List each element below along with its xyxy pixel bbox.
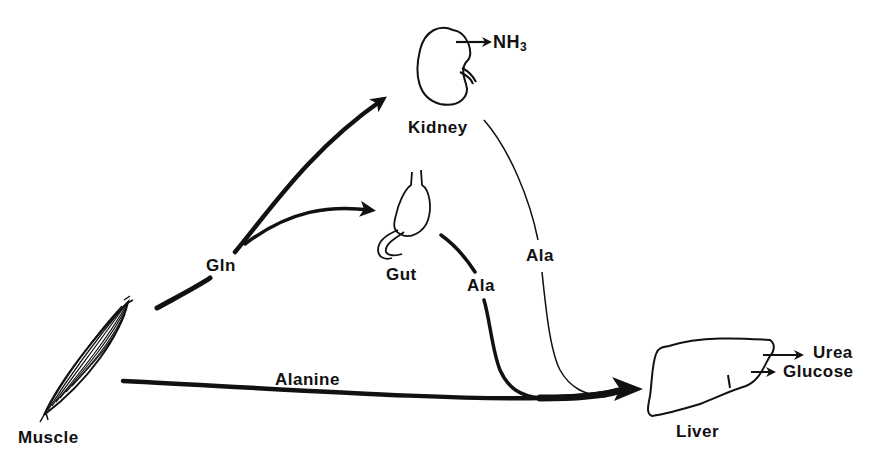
- nh3-subscript: 3: [520, 40, 527, 54]
- kidney-icon: [417, 28, 476, 105]
- alanine-label: Alanine: [275, 370, 340, 390]
- urea-label: Urea: [813, 343, 853, 363]
- liver-icon: [648, 338, 774, 416]
- gut-icon: [378, 170, 430, 259]
- gln-flow: [157, 100, 382, 308]
- liver-label: Liver: [676, 422, 719, 442]
- kidney-ala-label: Ala: [526, 246, 554, 266]
- nh3-text: NH: [493, 32, 520, 52]
- gut-label: Gut: [386, 265, 417, 285]
- muscle-icon: [40, 296, 133, 422]
- diagram-graphics: [0, 0, 889, 471]
- gut-ala-label: Ala: [467, 276, 495, 296]
- muscle-label: Muscle: [18, 428, 79, 448]
- nh3-label: NH3: [493, 32, 527, 53]
- diagram-canvas: Muscle Kidney NH3 Gut Liver Urea Glucose…: [0, 0, 889, 471]
- gln-label: Gln: [206, 256, 236, 276]
- glucose-label: Glucose: [783, 362, 854, 382]
- kidney-label: Kidney: [408, 118, 468, 138]
